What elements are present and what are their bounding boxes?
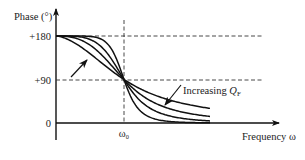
increasing-q-label: Increasing QF [183,85,241,98]
phase-curve-1 [56,36,210,108]
y-axis-label: Phase (°) [14,11,53,23]
phase-diagram: Phase (°) Frequency ω +180 +90 0 ω₀ Incr… [0,0,305,160]
phase-curve-4 [56,36,210,123]
phase-curve-3 [56,36,210,121]
curves-group [56,36,210,123]
y-tick-90: +90 [35,75,51,86]
x-axis-label: Frequency ω [242,131,296,142]
increasing-q-arrow-upper [71,60,87,77]
q-subscript: F [237,90,241,98]
increasing-q-text: Increasing [183,85,229,96]
x-tick-w0: ω₀ [119,128,130,139]
y-tick-180: +180 [29,31,51,42]
y-tick-0: 0 [46,118,51,129]
